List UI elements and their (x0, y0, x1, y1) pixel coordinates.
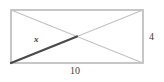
label-x: x (34, 35, 39, 44)
label-width-10: 10 (70, 66, 80, 76)
highlighted-segment-x (11, 37, 77, 64)
geometry-figure: x 4 10 (0, 0, 164, 82)
geometry-canvas (0, 0, 164, 82)
label-height-4: 4 (149, 32, 154, 42)
